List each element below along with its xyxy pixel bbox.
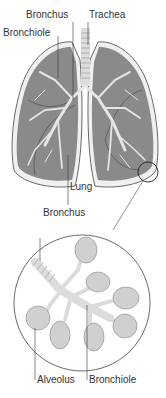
trachea-shape xyxy=(81,28,90,86)
label-bronchus-detail: Bronchus xyxy=(43,207,85,218)
label-bronchus: Bronchus xyxy=(26,9,68,20)
label-alveolus: Alveolus xyxy=(37,374,75,385)
lung-diagram xyxy=(0,0,166,398)
right-lung xyxy=(92,47,153,181)
label-bronchiole: Bronchiole xyxy=(3,27,50,38)
label-lung: Lung xyxy=(70,181,92,192)
label-trachea: Trachea xyxy=(89,9,125,20)
left-lung xyxy=(17,47,78,181)
label-bronchiole-detail: Bronchiole xyxy=(89,374,136,385)
